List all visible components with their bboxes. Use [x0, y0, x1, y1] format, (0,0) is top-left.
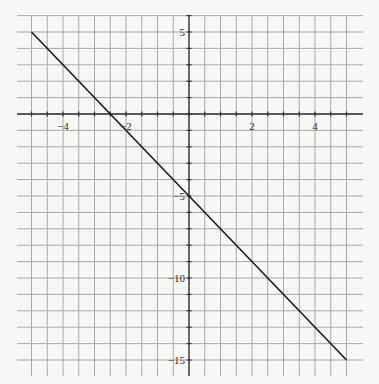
x-tick-label: −4: [57, 120, 69, 132]
line-plot: −4−2245−5−10−15: [0, 0, 379, 384]
y-tick-label: −10: [168, 272, 186, 284]
y-tick-label: −5: [173, 190, 185, 202]
x-tick-label: 4: [312, 120, 318, 132]
y-tick-label: 5: [180, 26, 186, 38]
y-tick-label: −15: [168, 354, 186, 366]
x-tick-label: 2: [249, 120, 255, 132]
